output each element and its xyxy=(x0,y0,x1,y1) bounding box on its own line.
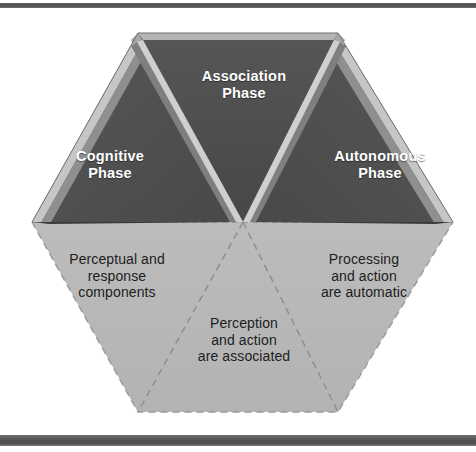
bevel-association-top-light xyxy=(138,33,338,40)
face-label-perceptual-response-components: Perceptual and response components xyxy=(42,251,192,301)
figure-root: Cognitive Phase Association Phase Autono… xyxy=(0,0,476,452)
bottom-horizontal-rule xyxy=(0,435,476,446)
face-label-cognitive: Cognitive Phase xyxy=(44,148,176,182)
face-label-perception-and-action-associated: Perception and action are associated xyxy=(160,315,328,365)
upper-pyramid xyxy=(32,33,453,224)
face-label-autonomous: Autonomous Phase xyxy=(310,148,450,182)
face-label-association: Association Phase xyxy=(178,68,310,102)
face-label-processing-and-action-automatic: Processing and action are automatic xyxy=(288,251,440,301)
